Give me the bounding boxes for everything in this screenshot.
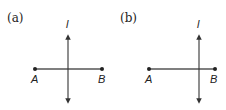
point-b-dot <box>100 67 104 71</box>
diagram-canvas: l A B l A B <box>0 0 226 110</box>
point-b-label: B <box>210 73 217 85</box>
line-l-label: l <box>66 18 69 30</box>
point-a-dot <box>33 67 37 71</box>
point-b-label: B <box>98 73 105 85</box>
point-a-label: A <box>30 73 38 85</box>
line-l-label: l <box>197 18 200 30</box>
point-a-dot <box>147 67 151 71</box>
panel-a-diagram: l A B <box>30 18 105 101</box>
point-a-label: A <box>144 73 152 85</box>
point-b-dot <box>213 67 217 71</box>
panel-b-diagram: l A B <box>144 18 217 101</box>
